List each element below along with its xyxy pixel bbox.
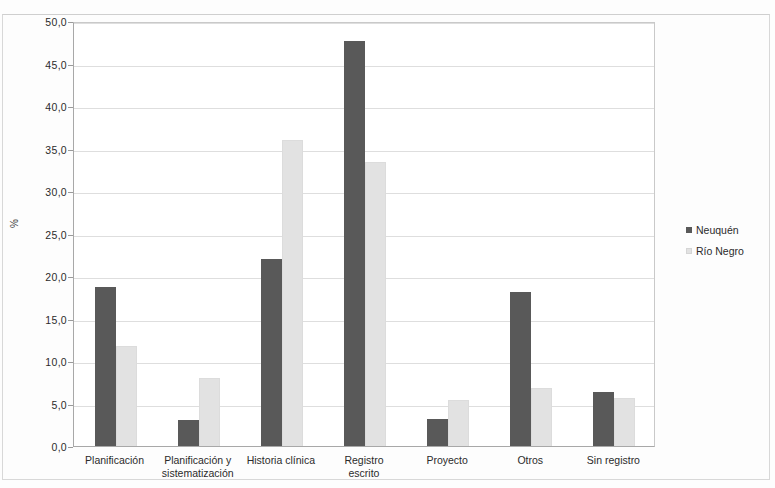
bar[interactable]: [427, 419, 448, 446]
x-tick-label: Proyecto: [406, 454, 489, 467]
chart-legend: NeuquénRío Negro: [686, 224, 744, 266]
legend-swatch-icon: [686, 248, 692, 254]
bar-group: [240, 23, 323, 446]
y-tick-label: 0,0: [7, 441, 67, 453]
y-tick-label: 50,0: [7, 16, 67, 28]
bar[interactable]: [95, 287, 116, 446]
bar[interactable]: [261, 259, 282, 446]
y-tick-label: 15,0: [7, 314, 67, 326]
legend-item[interactable]: Río Negro: [686, 245, 744, 257]
bar-group: [573, 23, 656, 446]
legend-label: Río Negro: [696, 245, 744, 257]
y-tick-label: 5,0: [7, 399, 67, 411]
y-tick-label: 40,0: [7, 101, 67, 113]
x-tick-label: Registro escrito: [322, 454, 405, 479]
plot-area: [73, 22, 655, 447]
y-tick-label: 25,0: [7, 229, 67, 241]
y-tick-mark: [68, 447, 73, 448]
legend-label: Neuquén: [696, 224, 739, 236]
bar[interactable]: [531, 388, 552, 446]
y-tick-label: 30,0: [7, 186, 67, 198]
x-tick-label: Planificación y sistematización: [156, 454, 239, 479]
bar[interactable]: [282, 140, 303, 446]
x-tick-label: Sin registro: [572, 454, 655, 467]
y-tick-label: 10,0: [7, 356, 67, 368]
bar-group: [157, 23, 240, 446]
bar-chart-figure: % 0,05,010,015,020,025,030,035,040,045,0…: [0, 0, 775, 488]
bar[interactable]: [614, 398, 635, 446]
y-tick-label: 45,0: [7, 59, 67, 71]
bar-group: [74, 23, 157, 446]
bar-group: [407, 23, 490, 446]
legend-swatch-icon: [686, 227, 692, 233]
bar[interactable]: [448, 400, 469, 446]
bar[interactable]: [116, 346, 137, 446]
x-tick-label: Otros: [489, 454, 572, 467]
y-tick-label: 20,0: [7, 271, 67, 283]
x-tick-label: Historia clínica: [239, 454, 322, 467]
bar[interactable]: [510, 292, 531, 446]
bar[interactable]: [178, 420, 199, 446]
y-axis-title: %: [9, 219, 20, 228]
bar-group: [323, 23, 406, 446]
bar-group: [490, 23, 573, 446]
legend-item[interactable]: Neuquén: [686, 224, 744, 236]
bar[interactable]: [593, 392, 614, 446]
y-tick-label: 35,0: [7, 144, 67, 156]
x-tick-label: Planificación: [73, 454, 156, 467]
bar[interactable]: [365, 162, 386, 446]
bar[interactable]: [344, 41, 365, 446]
bar[interactable]: [199, 378, 220, 446]
